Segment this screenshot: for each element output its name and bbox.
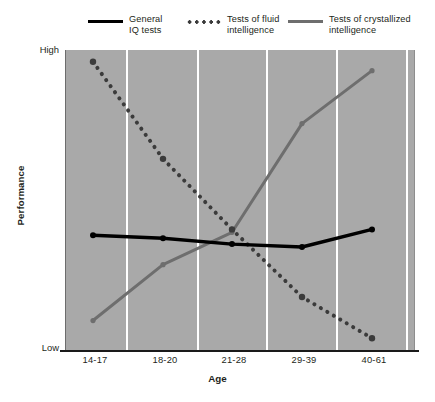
y-axis-line [65, 50, 66, 350]
x-tick-4: 40-61 [344, 354, 404, 365]
x-tick-0: 14-17 [65, 354, 125, 365]
x-tick-3: 29-39 [274, 354, 334, 365]
legend-label-general-iq: General IQ tests [129, 14, 162, 36]
legend-item-crystallized-intelligence: Tests of crystallized intelligence [288, 14, 411, 36]
chart-figure: General IQ tests Tests of fluid intellig… [0, 0, 435, 402]
data-point [299, 294, 305, 300]
legend-swatch-grey-line-icon [288, 20, 323, 23]
x-tick-1: 18-20 [135, 354, 195, 365]
legend-item-fluid-intelligence: Tests of fluid intelligence [186, 14, 279, 36]
series-lines [66, 50, 415, 350]
data-point [229, 241, 235, 247]
data-point [229, 226, 235, 232]
data-point [160, 262, 165, 267]
y-axis-title: Performance [15, 148, 26, 244]
data-point [369, 335, 375, 341]
x-axis-title: Age [0, 373, 435, 384]
y-axis-low-label: Low [15, 342, 59, 353]
series-path [93, 71, 372, 321]
legend-swatch-solid-line-icon [88, 20, 123, 23]
data-point [160, 235, 166, 241]
plot-area [66, 50, 415, 350]
y-axis-high-label: High [15, 44, 59, 55]
data-point [369, 68, 374, 73]
x-tick-2: 21-28 [204, 354, 264, 365]
plot-right-border [414, 50, 415, 350]
series-crystallized-intelligence [90, 68, 374, 323]
chart-legend: General IQ tests Tests of fluid intellig… [0, 14, 435, 50]
data-point [299, 121, 304, 126]
data-point [90, 232, 96, 238]
x-axis-line [60, 350, 419, 352]
legend-label-fluid-intelligence: Tests of fluid intelligence [227, 14, 279, 36]
data-point [299, 244, 305, 250]
data-point [160, 156, 166, 162]
data-point [369, 226, 375, 232]
legend-label-crystallized-intelligence: Tests of crystallized intelligence [329, 14, 411, 36]
legend-item-general-iq: General IQ tests [88, 14, 162, 36]
legend-swatch-dotted-line-icon [186, 20, 221, 24]
data-point [90, 318, 95, 323]
data-point [90, 59, 96, 65]
